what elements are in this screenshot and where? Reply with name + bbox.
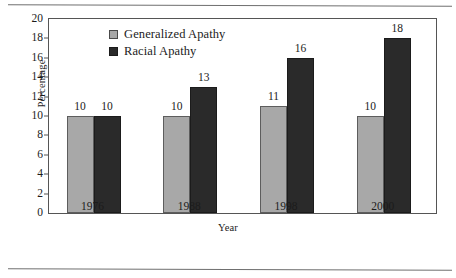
bar-value-label: 10 xyxy=(171,100,183,112)
bar-chart-figure: Percentage 02468101214161820 10101013111… xyxy=(0,0,456,278)
x-axis-tick-label: 1988 xyxy=(178,200,201,212)
legend-item: Racial Apathy xyxy=(109,44,225,59)
x-axis-tick-label: 1998 xyxy=(275,200,298,212)
legend-swatch-icon xyxy=(109,47,118,56)
y-axis-tick-mark xyxy=(44,174,49,175)
bar-value-label: 18 xyxy=(392,22,404,34)
chart-legend: Generalized Apathy Racial Apathy xyxy=(109,27,225,61)
bar-1998-series0: 11 xyxy=(260,106,287,213)
y-axis-tick-label: 0 xyxy=(37,207,49,219)
bar-value-label: 16 xyxy=(295,42,307,54)
y-axis-tick-mark xyxy=(44,193,49,194)
x-axis-title: Year xyxy=(0,222,456,233)
bar-1988-series0: 10 xyxy=(163,116,190,213)
legend-item-label: Racial Apathy xyxy=(124,44,196,59)
y-axis-tick-mark xyxy=(44,116,49,117)
bar-1988-series1: 13 xyxy=(190,87,217,213)
bar-value-label: 10 xyxy=(101,100,113,112)
bar-value-label: 10 xyxy=(74,100,86,112)
y-axis-tick-mark xyxy=(44,57,49,58)
x-axis-tick-label: 1976 xyxy=(81,200,104,212)
y-axis-tick-label: 20 xyxy=(32,13,50,25)
bar-2000-series0: 10 xyxy=(357,116,384,213)
y-axis-tick-mark xyxy=(44,154,49,155)
page-rule-bottom xyxy=(8,268,452,271)
bar-1976-series0: 10 xyxy=(67,116,94,213)
y-axis-tick-mark xyxy=(44,77,49,78)
legend-item-label: Generalized Apathy xyxy=(124,27,225,42)
bar-value-label: 10 xyxy=(365,100,377,112)
y-axis-tick-mark xyxy=(44,96,49,97)
bar-2000-series1: 18 xyxy=(384,38,411,213)
legend-swatch-icon xyxy=(109,30,118,39)
bar-1976-series1: 10 xyxy=(94,116,121,213)
legend-item: Generalized Apathy xyxy=(109,27,225,42)
x-axis-tick-label: 2000 xyxy=(371,200,394,212)
bar-value-label: 13 xyxy=(198,71,210,83)
bar-value-label: 11 xyxy=(268,90,279,102)
bar-1998-series1: 16 xyxy=(287,58,314,213)
plot-area: 02468101214161820 1010101311161018 Gener… xyxy=(48,18,437,214)
y-axis-tick-mark xyxy=(44,135,49,136)
page-rule-top xyxy=(8,4,452,7)
y-axis-tick-mark xyxy=(44,38,49,39)
